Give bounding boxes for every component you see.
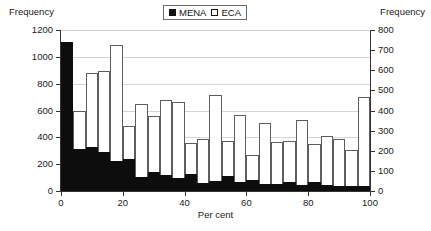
bar: [209, 181, 221, 191]
y-axis-left-tick: [56, 137, 60, 138]
y-axis-left-ticklabel: 600: [13, 106, 53, 116]
y-axis-left-tick: [56, 30, 60, 31]
legend-swatch-eca-icon: [211, 9, 218, 16]
y-axis-left-tick: [56, 57, 60, 58]
bar: [222, 176, 234, 191]
bar: [246, 180, 258, 191]
y-axis-left-tick: [56, 191, 60, 192]
bar: [271, 184, 283, 191]
legend-label-mena: MENA: [179, 8, 206, 18]
bar: [296, 185, 308, 191]
chart-legend: MENA ECA: [163, 5, 247, 20]
chart-figure: Frequency Frequency MENA ECA 02004006008…: [0, 0, 431, 231]
x-axis-ticklabel: 80: [288, 198, 328, 208]
bar: [308, 182, 320, 191]
y-axis-right-tick: [371, 191, 375, 192]
bar: [110, 161, 122, 191]
bar: [123, 159, 135, 191]
x-axis-tick: [246, 192, 247, 196]
bar: [197, 183, 209, 191]
x-axis-ticklabel: 0: [41, 198, 81, 208]
y-axis-left-tick: [56, 111, 60, 112]
y-axis-right-tick: [371, 111, 375, 112]
x-axis-tick: [308, 192, 309, 196]
bar: [86, 147, 98, 191]
bar-series-mena: [61, 30, 370, 191]
x-axis-ticklabel: 60: [226, 198, 266, 208]
y-axis-left-ticklabel: 400: [13, 132, 53, 142]
bar: [172, 178, 184, 191]
bar: [185, 174, 197, 191]
plot-area: [60, 30, 371, 192]
y-axis-left-tick: [56, 84, 60, 85]
bar: [283, 182, 295, 191]
y-axis-right-tick: [371, 131, 375, 132]
legend-label-eca: ECA: [221, 8, 241, 18]
x-axis-title: Per cent: [0, 209, 431, 220]
y-axis-right-ticklabel: 200: [378, 146, 418, 156]
y-axis-right-title: Frequency: [380, 6, 425, 17]
bar: [98, 152, 110, 191]
y-axis-left-ticklabel: 200: [13, 159, 53, 169]
y-axis-left-ticklabel: 1200: [13, 25, 53, 35]
bar: [358, 186, 370, 191]
y-axis-right-tick: [371, 30, 375, 31]
bar: [135, 177, 147, 191]
legend-item-eca: ECA: [211, 8, 241, 18]
y-axis-left-ticklabel: 800: [13, 79, 53, 89]
x-axis-tick: [185, 192, 186, 196]
bar: [259, 184, 271, 191]
y-axis-right-ticklabel: 600: [378, 65, 418, 75]
y-axis-right-ticklabel: 100: [378, 166, 418, 176]
x-axis-ticklabel: 20: [103, 198, 143, 208]
x-axis-ticklabel: 100: [350, 198, 390, 208]
y-axis-right-ticklabel: 0: [378, 186, 418, 196]
legend-swatch-mena-icon: [169, 9, 176, 16]
y-axis-left-title: Frequency: [9, 6, 54, 17]
y-axis-left-tick: [56, 164, 60, 165]
y-axis-left-ticklabel: 1000: [13, 52, 53, 62]
legend-item-mena: MENA: [169, 8, 206, 18]
x-axis-ticklabel: 40: [165, 198, 205, 208]
bar: [333, 186, 345, 191]
y-axis-right-ticklabel: 400: [378, 106, 418, 116]
y-axis-right-ticklabel: 300: [378, 126, 418, 136]
bar: [61, 42, 73, 191]
y-axis-right-ticklabel: 500: [378, 85, 418, 95]
y-axis-right-tick: [371, 151, 375, 152]
y-axis-right-ticklabel: 700: [378, 45, 418, 55]
bar: [73, 149, 85, 191]
y-axis-left-ticklabel: 0: [13, 186, 53, 196]
x-axis-tick: [123, 192, 124, 196]
bar: [321, 185, 333, 191]
y-axis-right-tick: [371, 90, 375, 91]
bar: [234, 182, 246, 191]
bar: [160, 175, 172, 191]
y-axis-right-tick: [371, 171, 375, 172]
x-axis-tick: [61, 192, 62, 196]
bar: [345, 186, 357, 191]
x-axis-tick: [370, 192, 371, 196]
y-axis-right-tick: [371, 70, 375, 71]
y-axis-right-tick: [371, 50, 375, 51]
y-axis-right-ticklabel: 800: [378, 25, 418, 35]
bar: [148, 172, 160, 191]
